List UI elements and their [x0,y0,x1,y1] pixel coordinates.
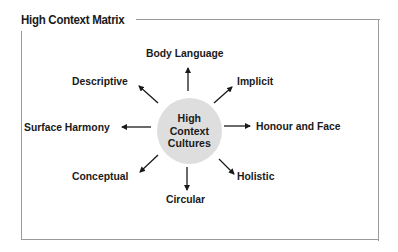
arrow-up-left-icon [139,86,158,103]
label-surface-harmony: Surface Harmony [24,121,110,133]
arrow-down-left-icon [140,155,158,172]
hub-circle: High Context Cultures [157,98,222,164]
hub-line-1: High [168,112,211,125]
label-honour-and-face: Honour and Face [256,120,341,132]
label-holistic: Holistic [237,170,274,182]
hub-line-3: Cultures [168,137,211,150]
label-circular: Circular [166,193,205,205]
hub-line-2: Context [168,125,211,138]
label-descriptive: Descriptive [72,75,128,87]
arrow-up-right-icon [214,87,232,103]
label-conceptual: Conceptual [72,170,128,182]
label-body-language: Body Language [146,47,224,59]
hub-label: High Context Cultures [168,112,211,150]
label-implicit: Implicit [237,75,273,87]
arrow-down-right-icon [219,159,234,174]
